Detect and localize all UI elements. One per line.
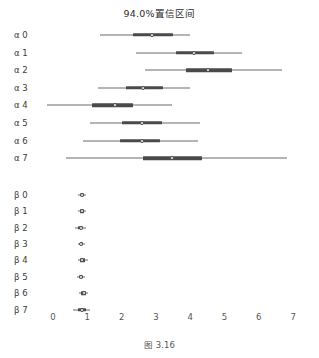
point-estimate-marker [192, 51, 196, 55]
forest-row: β 1 [0, 203, 319, 219]
row-label: α 2 [14, 65, 28, 75]
forest-row: α 6 [0, 133, 319, 149]
row-label: β 0 [14, 190, 28, 200]
forest-row: α 1 [0, 45, 319, 61]
point-estimate-marker [80, 193, 84, 197]
forest-row: β 4 [0, 252, 319, 268]
forest-row: α 0 [0, 27, 319, 43]
row-label: α 6 [14, 136, 28, 146]
figure-caption: 图 3.16 [0, 338, 319, 350]
point-estimate-marker [140, 121, 144, 125]
forest-row: β 3 [0, 236, 319, 252]
point-estimate-marker [82, 291, 86, 295]
point-estimate-marker [150, 33, 154, 37]
point-estimate-marker [113, 103, 117, 107]
forest-row: β 6 [0, 285, 319, 301]
row-label: α 4 [14, 100, 28, 110]
chart-title: 94.0%置信区间 [0, 6, 319, 20]
x-tick-label: 5 [222, 312, 227, 322]
forest-row: α 4 [0, 97, 319, 113]
plot-area: α 0α 1α 2α 3α 4α 5α 6α 7β 0β 1β 2β 3β 4β… [0, 24, 319, 312]
x-axis: 01234567 [0, 312, 319, 328]
point-estimate-marker [80, 209, 84, 213]
row-label: β 1 [14, 206, 28, 216]
point-estimate-marker [140, 139, 144, 143]
forest-row: β 5 [0, 269, 319, 285]
row-label: α 1 [14, 48, 28, 58]
forest-row: β 0 [0, 187, 319, 203]
x-tick-label: 3 [153, 312, 158, 322]
row-label: α 7 [14, 153, 28, 163]
row-label: α 0 [14, 30, 28, 40]
point-estimate-marker [79, 242, 83, 246]
x-tick-label: 4 [187, 312, 192, 322]
row-label: β 6 [14, 288, 28, 298]
forest-row: α 5 [0, 115, 319, 131]
point-estimate-marker [170, 156, 174, 160]
point-estimate-marker [80, 258, 84, 262]
point-estimate-marker [141, 86, 145, 90]
x-tick-label: 7 [290, 312, 295, 322]
row-label: β 5 [14, 272, 28, 282]
point-estimate-marker [79, 226, 83, 230]
row-label: α 5 [14, 118, 28, 128]
x-tick-label: 1 [85, 312, 90, 322]
row-label: β 4 [14, 255, 28, 265]
forest-row: α 7 [0, 150, 319, 166]
forest-row: β 2 [0, 220, 319, 236]
point-estimate-marker [80, 308, 84, 312]
row-label: β 3 [14, 239, 28, 249]
row-label: α 3 [14, 83, 28, 93]
point-estimate-marker [206, 68, 210, 72]
x-tick-label: 2 [119, 312, 124, 322]
forest-plot-figure: 94.0%置信区间 α 0α 1α 2α 3α 4α 5α 6α 7β 0β 1… [0, 0, 319, 358]
row-label: β 2 [14, 223, 28, 233]
point-estimate-marker [79, 275, 83, 279]
x-tick-label: 0 [50, 312, 55, 322]
forest-row: α 3 [0, 80, 319, 96]
forest-row: α 2 [0, 62, 319, 78]
x-tick-label: 6 [256, 312, 261, 322]
